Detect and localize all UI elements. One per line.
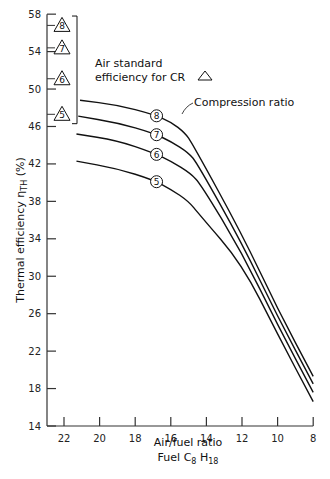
y-tick-label: 42 <box>28 158 41 169</box>
y-tick-label: 34 <box>28 233 41 244</box>
curve-cr-6 <box>76 134 313 392</box>
x-tick-label: 12 <box>236 433 249 444</box>
air-standard-cr-6: 6 <box>59 75 65 85</box>
y-tick-label: 18 <box>28 383 41 394</box>
y-tick-label: 54 <box>28 46 41 57</box>
cr-label-6: 6 <box>154 150 160 160</box>
curve-cr-5 <box>76 161 313 402</box>
cr-label-5: 5 <box>154 177 160 187</box>
x-axis-label: Air/fuel ratio <box>154 436 223 449</box>
compression-ratio-leader <box>182 103 193 114</box>
triangle-icon <box>198 71 212 80</box>
x-tick-label: 22 <box>58 433 71 444</box>
y-tick-label: 26 <box>28 308 41 319</box>
y-tick-label: 50 <box>28 84 41 95</box>
x-axis-sublabel: Fuel C8 H18 <box>158 451 219 466</box>
y-axis-label: Thermal efficiency ηTH (%) <box>14 157 29 304</box>
compression-ratio-label: Compression ratio <box>194 96 295 109</box>
air-standard-cr-5: 5 <box>59 110 65 120</box>
y-tick-label: 22 <box>28 346 41 357</box>
air-standard-markers: 8765 <box>47 17 70 120</box>
x-tick-label: 10 <box>271 433 284 444</box>
x-tick-label: 18 <box>129 433 142 444</box>
cr-label-8: 8 <box>154 111 160 121</box>
air-standard-label-1: Air standard <box>95 57 162 70</box>
x-tick-label: 20 <box>93 433 106 444</box>
air-standard-label-2: efficiency for CR <box>95 71 186 84</box>
cr-label-7: 7 <box>154 130 160 140</box>
y-tick-label: 14 <box>28 421 41 432</box>
thermal-efficiency-chart: 141822263034384246505458222018161412108 … <box>0 0 330 479</box>
y-tick-label: 46 <box>28 121 41 132</box>
air-standard-cr-8: 8 <box>59 21 65 31</box>
curve-cr-7 <box>78 116 313 384</box>
curves: 8765 <box>76 100 313 401</box>
bracket <box>72 16 77 124</box>
x-tick-label: 8 <box>310 433 316 444</box>
y-tick-label: 38 <box>28 196 41 207</box>
air-standard-cr-7: 7 <box>59 44 65 54</box>
y-tick-label: 30 <box>28 271 41 282</box>
y-tick-label: 58 <box>28 9 41 20</box>
